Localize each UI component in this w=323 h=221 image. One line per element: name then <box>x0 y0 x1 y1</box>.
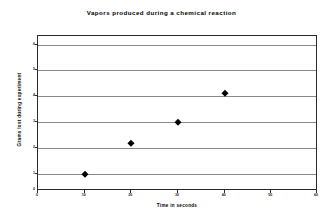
y-tick-label: 4 <box>21 93 35 97</box>
x-tick-label: 60 <box>306 193 323 197</box>
y-tick-label: 0 <box>21 187 35 191</box>
y-tick-label: 3 <box>21 119 35 123</box>
y-tick-label: 5 <box>21 67 35 71</box>
y-tick-label: 6 <box>21 42 35 46</box>
x-tick-label: 0 <box>27 193 47 197</box>
data-point <box>175 119 181 125</box>
y-axis-title: Grams lost during experiment <box>17 40 22 180</box>
plot-area <box>37 35 317 190</box>
y-tick-mark <box>35 44 38 45</box>
data-point <box>81 171 87 177</box>
gridline <box>38 96 316 97</box>
data-point <box>128 140 134 146</box>
x-tick-label: 20 <box>120 193 140 197</box>
y-tick-mark <box>35 147 38 148</box>
x-axis-title: Time in seconds <box>37 203 317 208</box>
x-tick-label: 30 <box>167 193 187 197</box>
y-tick-mark <box>35 121 38 122</box>
y-tick-mark <box>35 173 38 174</box>
chart-title: Vapors produced during a chemical reacti… <box>0 9 323 16</box>
y-tick-mark <box>35 95 38 96</box>
gridline <box>38 148 316 149</box>
chart-container: Vapors produced during a chemical reacti… <box>0 0 323 221</box>
x-tick-label: 40 <box>214 193 234 197</box>
gridline <box>38 70 316 71</box>
x-axis-ticks: 0 10 20 30 40 50 60 <box>37 193 317 201</box>
gridline <box>38 45 316 46</box>
gridline <box>38 174 316 175</box>
y-tick-mark <box>35 69 38 70</box>
x-tick-label: 10 <box>74 193 94 197</box>
y-tick-label: 2 <box>21 145 35 149</box>
x-tick-label: 50 <box>260 193 280 197</box>
y-tick-label: 1 <box>21 171 35 175</box>
